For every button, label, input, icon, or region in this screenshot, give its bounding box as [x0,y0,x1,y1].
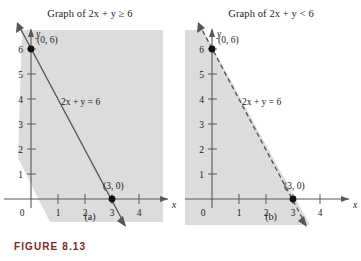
panel-b-plot: x y 1 2 3 4 0 [181,22,361,232]
panel-a-sublabel: (a) [0,211,180,222]
panel-a-x-axis-label: x [171,200,177,210]
panel-a-point-3-0-label: (3, 0) [103,181,124,192]
figure-8-13: Graph of 2x + y ≥ 6 x [0,0,361,261]
panel-b-ytick-3: 3 [199,120,204,130]
panel-b-ytick-6: 6 [199,45,204,55]
panel-a-ytick-3: 3 [18,120,23,130]
panel-b-ytick-4: 4 [199,95,204,105]
figure-caption: FIGURE 8.13 [14,241,86,252]
panel-a-shaded-region [18,30,163,222]
graph-panel-a: Graph of 2x + y ≥ 6 x [0,0,180,232]
panel-a-ytick-1: 1 [18,170,23,180]
panel-b-x-axis-label: x [352,200,358,210]
panel-b-point-3-0-label: (3, 0) [284,181,305,192]
panel-a-ytick-5: 5 [18,70,23,80]
panel-a-svg: x y 1 2 3 4 0 [0,22,180,232]
panel-b-equation-label: 2x + y = 6 [242,97,281,107]
panel-a-equation-label: 2x + y = 6 [61,97,100,107]
panel-a-title: Graph of 2x + y ≥ 6 [0,8,180,19]
panel-b-sublabel: (b) [181,211,361,222]
graph-panel-b: Graph of 2x + y < 6 x [181,0,361,232]
panel-b-ytick-1: 1 [199,170,204,180]
panel-a-ytick-6: 6 [18,45,23,55]
panel-a-plot: x y 1 2 3 4 0 [0,22,180,232]
panel-b-ytick-2: 2 [199,145,204,155]
panel-b-ytick-5: 5 [199,70,204,80]
panel-a-point-0-6-label: (0, 6) [37,35,58,46]
panel-b-point-0-6-label: (0, 6) [218,35,239,46]
panel-b-point-0-6: (0, 6) [209,35,239,52]
panel-a-ytick-2: 2 [18,145,23,155]
panel-b-svg: x y 1 2 3 4 0 [181,22,361,232]
panel-a-ytick-4: 4 [18,95,23,105]
panel-b-title: Graph of 2x + y < 6 [181,8,361,19]
